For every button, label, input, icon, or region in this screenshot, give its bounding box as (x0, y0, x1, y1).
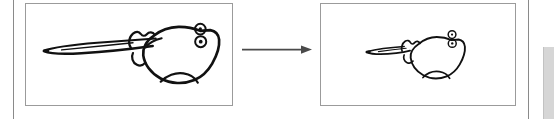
input-sketch-panel (25, 3, 233, 106)
body-disc-outline-stroke (143, 27, 219, 83)
spiracle-centre-dot (451, 42, 453, 44)
page-margin-rule-left (13, 0, 14, 119)
spiracle-centre-dot (199, 40, 203, 44)
output-stingray-drawing (321, 4, 515, 105)
transform-arrow-icon (240, 40, 316, 60)
page-margin-rule-right (528, 0, 529, 119)
transform-arrow (240, 40, 316, 60)
input-stingray-drawing (26, 4, 232, 105)
tail-lower-edge-stroke (367, 51, 411, 55)
output-sketch-panel (320, 3, 516, 106)
figure-page (0, 0, 555, 119)
vertical-scrollbar[interactable] (543, 47, 554, 119)
arrow-head (301, 45, 312, 53)
eye-pupil-dot (451, 34, 453, 36)
eye-pupil-dot (199, 27, 202, 30)
